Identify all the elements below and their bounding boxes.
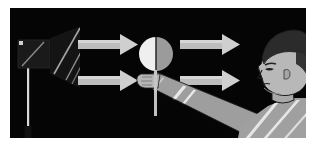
lamp-bulb-glint — [19, 41, 23, 45]
stick-through-hand — [154, 70, 157, 92]
scene-drawing — [10, 8, 306, 138]
illustration-figure: lamp-light-source light-ray-arrows half-… — [0, 0, 315, 151]
scene-panel — [10, 8, 306, 138]
half-lit-ball — [139, 37, 173, 71]
lamp-pole-base — [25, 126, 32, 138]
ear — [284, 70, 290, 80]
mouth — [263, 84, 270, 85]
lamp-pole — [27, 64, 29, 136]
